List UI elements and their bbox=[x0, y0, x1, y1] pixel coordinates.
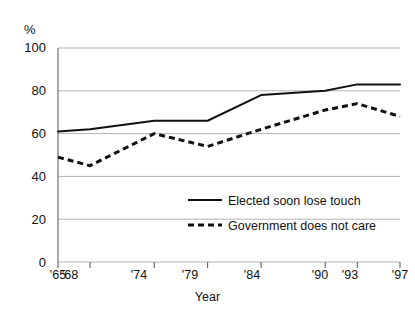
series-line-government-does-not-care bbox=[58, 104, 400, 166]
x-tick-label: '93 bbox=[330, 268, 370, 282]
plot-area bbox=[0, 0, 415, 314]
y-tick-label: 20 bbox=[12, 212, 46, 227]
legend-label-elected-soon-lose-touch: Elected soon lose touch bbox=[228, 194, 361, 208]
legend-line-samples bbox=[188, 200, 222, 225]
x-tick-label: '74 bbox=[119, 268, 159, 282]
series-line-elected-soon-lose-touch bbox=[58, 84, 400, 131]
y-tick-label: 100 bbox=[12, 40, 46, 55]
y-tick-label: 40 bbox=[12, 169, 46, 184]
legend-label-government-does-not-care: Government does not care bbox=[228, 219, 376, 233]
y-tick-label: 60 bbox=[12, 126, 46, 141]
x-tick-label: '68 bbox=[50, 268, 90, 282]
x-tick-label: '79 bbox=[170, 268, 210, 282]
chart-figure: % 100 80 60 40 20 0 '65 '68 '74 '79 '84 … bbox=[0, 0, 415, 314]
y-tick-label: 80 bbox=[12, 83, 46, 98]
x-axis-title: Year bbox=[0, 290, 415, 304]
x-tick-label: '84 bbox=[232, 268, 272, 282]
x-tick-label: '97 bbox=[380, 268, 415, 282]
data-series-group bbox=[58, 84, 400, 165]
